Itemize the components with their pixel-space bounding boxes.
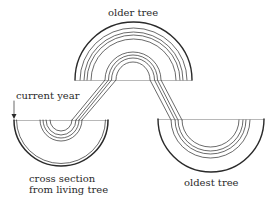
current-year-label: current year bbox=[16, 90, 80, 101]
oldest-tree-label: oldest tree bbox=[184, 177, 239, 188]
living-tree-section bbox=[14, 120, 108, 166]
ring-match-band bbox=[72, 52, 182, 120]
living-tree-label-line2: from living tree bbox=[29, 184, 108, 195]
oldest-tree-bark bbox=[158, 119, 264, 172]
living-tree-bark bbox=[14, 120, 108, 166]
tree-ring-crossdating-diagram: older tree current year cross section fr… bbox=[0, 0, 272, 200]
current-year-arrow-icon bbox=[12, 101, 17, 119]
diagram-canvas: older tree current year cross section fr… bbox=[0, 0, 272, 200]
living-tree-label-line1: cross section bbox=[29, 173, 96, 184]
older-tree-bark bbox=[75, 22, 192, 80]
oldest-tree-section bbox=[158, 119, 264, 172]
older-tree-label: older tree bbox=[108, 7, 158, 18]
older-tree-section bbox=[75, 22, 192, 81]
